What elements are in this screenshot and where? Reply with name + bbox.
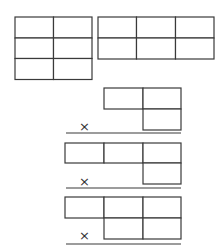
- answer-box[interactable]: [104, 218, 143, 239]
- grid-cell: [98, 17, 137, 38]
- grid-cell: [98, 38, 137, 59]
- grid-cell: [15, 17, 54, 38]
- grid-cell: [176, 17, 215, 38]
- grid-cell: [15, 38, 54, 59]
- answer-box[interactable]: [143, 109, 181, 130]
- answer-box[interactable]: [104, 143, 143, 163]
- answer-box[interactable]: [143, 143, 181, 163]
- worksheet-diagram: × × ×: [0, 0, 215, 252]
- answer-box[interactable]: [65, 197, 104, 218]
- problem-3: ×: [65, 197, 181, 244]
- answer-box[interactable]: [104, 197, 143, 218]
- answer-box[interactable]: [65, 143, 104, 163]
- answer-box[interactable]: [104, 88, 143, 109]
- grid-cell: [137, 17, 176, 38]
- grid-cell: [176, 38, 215, 59]
- grid-cell: [137, 38, 176, 59]
- problem-1: ×: [66, 88, 181, 134]
- grid-cell: [54, 38, 93, 59]
- answer-box[interactable]: [143, 218, 181, 239]
- multiply-sign: ×: [79, 174, 90, 189]
- grid-2-columns-3-rows: [15, 17, 92, 80]
- grid-cell: [54, 17, 93, 38]
- answer-box[interactable]: [143, 88, 181, 109]
- problem-2: ×: [65, 143, 181, 189]
- multiply-sign: ×: [79, 119, 90, 134]
- grid-cell: [15, 59, 54, 80]
- answer-box[interactable]: [143, 163, 181, 184]
- answer-box[interactable]: [143, 197, 181, 218]
- grid-cell: [54, 59, 93, 80]
- multiply-sign: ×: [79, 228, 90, 243]
- grid-3-columns-2-rows: [98, 17, 214, 59]
